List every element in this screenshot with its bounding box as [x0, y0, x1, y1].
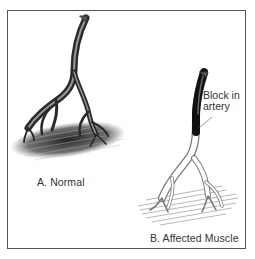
- callout-line-2: artery: [203, 101, 240, 112]
- artery-illustration: [0, 0, 255, 259]
- panel-b-label: B. Affected Muscle: [150, 232, 239, 244]
- panel-a-label: A. Normal: [37, 176, 85, 188]
- block-callout: Block in artery: [203, 90, 240, 112]
- normal-muscle: [8, 115, 128, 165]
- callout-leader-line: [199, 117, 212, 128]
